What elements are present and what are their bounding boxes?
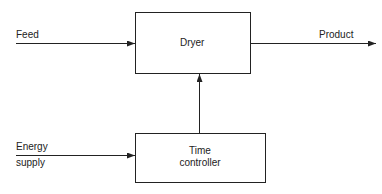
time-controller-label-line1: Time xyxy=(135,145,265,157)
dryer-label: Dryer xyxy=(180,37,204,49)
feed-label: Feed xyxy=(16,29,39,41)
energy-label-line1: Energy xyxy=(16,141,48,153)
product-label: Product xyxy=(319,29,353,41)
diagram-canvas: Feed Dryer Product Energy supply Time co… xyxy=(0,0,382,194)
energy-label-line2: supply xyxy=(16,157,45,169)
time-controller-label-line2: controller xyxy=(135,157,265,169)
